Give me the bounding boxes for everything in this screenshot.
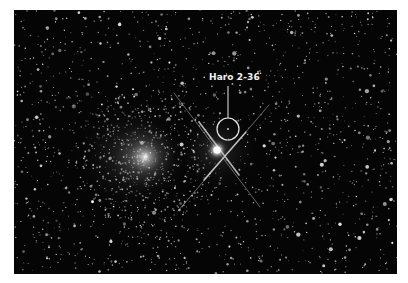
star-field [14, 10, 397, 274]
object-label: Haro 2-36 [209, 72, 260, 82]
star-field-image: Haro 2-36 [14, 10, 397, 274]
globular-cluster-core [107, 119, 183, 195]
